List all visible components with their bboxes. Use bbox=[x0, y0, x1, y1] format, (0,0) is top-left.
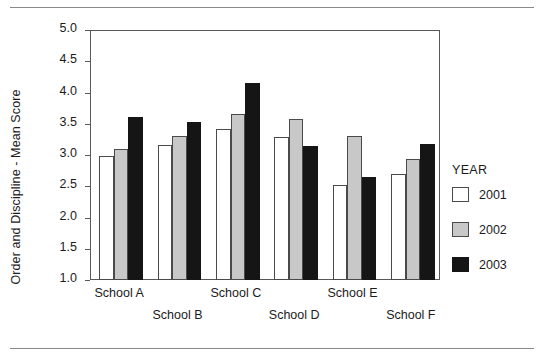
bar-school-c-2003 bbox=[245, 83, 260, 280]
bars-layer bbox=[90, 30, 440, 280]
legend-title: YEAR bbox=[452, 163, 538, 177]
black-swatch bbox=[452, 257, 469, 272]
bar-school-f-2003 bbox=[420, 144, 435, 280]
bar-school-f-2002 bbox=[406, 159, 421, 280]
legend-items: 200120022003 bbox=[452, 186, 538, 273]
bar-school-d-2001 bbox=[274, 137, 289, 280]
legend-item-label: 2001 bbox=[479, 188, 507, 202]
bar-school-e-2003 bbox=[362, 177, 377, 280]
y-axis-tick-label: 5.0 bbox=[60, 21, 77, 35]
legend-item-2003: 2003 bbox=[452, 256, 538, 273]
bar-school-b-2002 bbox=[172, 136, 187, 280]
y-axis-tick-label: 3.5 bbox=[60, 115, 77, 129]
bar-school-b-2001 bbox=[158, 145, 173, 280]
legend-item-label: 2003 bbox=[479, 258, 507, 272]
x-axis-label-school-d: School D bbox=[269, 308, 320, 322]
bar-school-c-2002 bbox=[231, 114, 246, 280]
y-axis-tick-label: 4.5 bbox=[60, 52, 77, 66]
bar-school-e-2002 bbox=[347, 136, 362, 280]
bar-school-a-2002 bbox=[114, 149, 129, 280]
bar-school-d-2003 bbox=[303, 146, 318, 280]
y-axis-tick-label: 4.0 bbox=[60, 84, 77, 98]
y-axis-tick-label: 2.0 bbox=[60, 209, 77, 223]
white-swatch bbox=[452, 187, 469, 202]
x-axis-label-school-e: School E bbox=[327, 286, 377, 300]
legend-item-2002: 2002 bbox=[452, 221, 538, 238]
y-axis-tick-label: 3.0 bbox=[60, 146, 77, 160]
bar-school-e-2001 bbox=[333, 185, 348, 280]
top-divider-rule bbox=[10, 7, 534, 8]
x-axis-label-school-f: School F bbox=[386, 308, 435, 322]
bar-school-a-2003 bbox=[128, 117, 143, 280]
bar-school-f-2001 bbox=[391, 174, 406, 280]
legend-item-2001: 2001 bbox=[452, 186, 538, 203]
gray-swatch bbox=[452, 222, 469, 237]
bar-school-b-2003 bbox=[187, 122, 202, 280]
legend-item-label: 2002 bbox=[479, 223, 507, 237]
bar-chart-figure: Order and Discipline - Mean Score 5.04.5… bbox=[0, 0, 544, 362]
y-axis-title-container: Order and Discipline - Mean Score bbox=[18, 30, 36, 280]
legend: YEAR 200120022003 bbox=[452, 163, 538, 291]
bar-school-c-2001 bbox=[216, 129, 231, 280]
x-axis-label-school-c: School C bbox=[210, 286, 261, 300]
x-axis-label-school-a: School A bbox=[94, 286, 143, 300]
y-axis-tick-label: 1.0 bbox=[60, 271, 77, 285]
y-axis-title: Order and Discipline - Mean Score bbox=[9, 42, 27, 332]
x-axis-label-school-b: School B bbox=[152, 308, 202, 322]
y-axis-tick-label: 1.5 bbox=[60, 240, 77, 254]
bar-school-d-2002 bbox=[289, 119, 304, 280]
x-axis-labels: School ASchool BSchool CSchool DSchool E… bbox=[90, 280, 440, 340]
bar-school-a-2001 bbox=[99, 156, 114, 280]
bottom-divider-rule bbox=[10, 348, 534, 349]
y-axis-tick-label: 2.5 bbox=[60, 177, 77, 191]
